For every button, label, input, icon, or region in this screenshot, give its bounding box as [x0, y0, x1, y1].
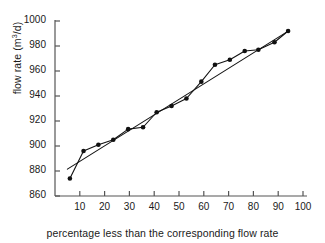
data-point-marker — [96, 142, 101, 147]
data-point-marker — [141, 125, 146, 130]
x-axis-title: percentage less than the corresponding f… — [0, 227, 325, 239]
chart-figure: flow rate (m3/d) 86088090092094096098010… — [0, 0, 325, 243]
data-point-marker — [68, 176, 73, 181]
data-point-marker — [81, 149, 86, 154]
data-point-marker — [199, 79, 204, 84]
data-point-marker — [228, 57, 233, 62]
data-point-marker — [213, 62, 218, 67]
plot-area — [0, 0, 325, 243]
data-point-marker — [184, 96, 189, 101]
fitted-reference-line — [67, 30, 289, 169]
data-series-line — [70, 31, 288, 179]
data-point-marker — [242, 49, 247, 54]
